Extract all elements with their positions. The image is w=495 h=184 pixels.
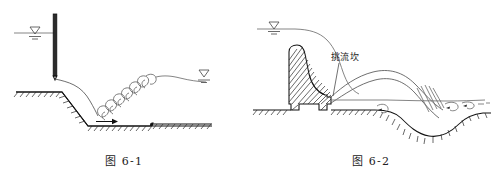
figure-6-2-panel: 挑流坎 图 6-2 [247,0,495,184]
riverbed-hatch-left [253,110,287,115]
jet-upper-trajectory [331,71,443,111]
sluice-gate [53,14,57,80]
scour-pit-hatch [380,112,487,144]
figure-6-2-drawing: 挑流坎 [247,0,495,150]
riverbed-with-scour-pit [331,110,491,136]
flip-bucket-annotation: 挑流坎 [331,51,359,96]
figure-6-1-panel: 图 6-1 [0,0,248,184]
ground-hatch-basin-floor [88,126,152,131]
tailwater-eddies [377,102,490,113]
ground-hatch-left-bank [14,92,60,97]
ground-profile-basin [16,92,152,126]
figure-sheet: 图 6-1 [0,0,495,184]
downstream-water-surface-line [156,76,206,82]
figure-6-2-caption: 图 6-2 [247,152,495,168]
ground-hatch-basin-slope [59,96,85,123]
figure-6-1-drawing [0,0,248,150]
hydraulic-jump-roller [98,74,157,120]
tailwater-surface-line [331,100,485,101]
figure-6-1-caption: 图 6-1 [0,152,248,168]
upstream-water-level-symbol [268,22,280,34]
flow-direction-arrow [96,119,118,124]
downstream-water-level-symbol [198,70,210,83]
flip-bucket-label: 挑流坎 [331,51,359,62]
riverbed-hatch-right [331,110,377,116]
